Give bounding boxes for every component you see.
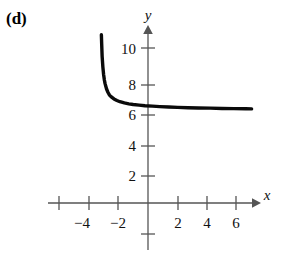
y-tick-label-2: 2 [129, 168, 137, 184]
y-axis-arrow-icon [143, 25, 153, 34]
y-tick-label-8: 8 [129, 77, 137, 93]
x-tick-label-neg4: −4 [74, 215, 90, 231]
coordinate-plot: −4 −2 2 4 6 2 4 6 8 10 x y [0, 0, 282, 262]
figure-panel: (d) −4 −2 2 4 6 2 4 6 8 10 x [0, 0, 282, 262]
y-tick-label-4: 4 [129, 138, 137, 154]
x-axis-label: x [263, 187, 271, 203]
x-tick-label-neg2: −2 [110, 215, 126, 231]
y-tick-label-6: 6 [129, 107, 137, 123]
x-tick-label-2: 2 [174, 215, 182, 231]
x-tick-label-4: 4 [203, 215, 211, 231]
y-axis-label: y [143, 7, 152, 23]
x-axis-arrow-icon [252, 198, 261, 208]
y-tick-label-10: 10 [121, 41, 136, 57]
x-tick-label-6: 6 [232, 215, 240, 231]
